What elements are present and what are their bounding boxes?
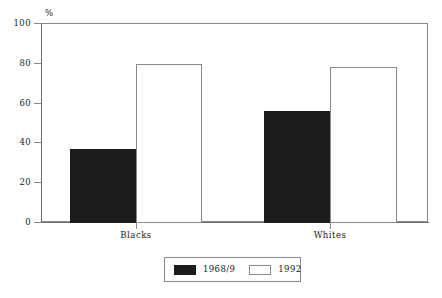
- bar-blacks-1992: [136, 64, 202, 223]
- y-axis-line: [41, 23, 42, 223]
- y-tick-60: [34, 103, 41, 104]
- x-axis-label-whites: Whites: [270, 231, 390, 240]
- y-tick-0: [34, 222, 41, 223]
- legend-item-1968-9: 1968/9: [174, 265, 235, 275]
- y-tick-100: [34, 23, 41, 24]
- chart-legend: 1968/9 1992: [164, 257, 301, 282]
- y-tick-label-100: 100: [0, 19, 31, 28]
- x-tick-blacks: [136, 223, 137, 229]
- legend-swatch-dark-icon: [174, 265, 196, 275]
- bar-blacks-1968-9: [70, 149, 136, 223]
- y-axis-unit-label: %: [45, 9, 53, 18]
- y-tick-80: [34, 63, 41, 64]
- legend-label-1992: 1992: [278, 265, 301, 274]
- bar-whites-1968-9: [264, 111, 330, 223]
- x-axis-label-blacks: Blacks: [76, 231, 196, 240]
- y-tick-40: [34, 142, 41, 143]
- y-tick-label-20: 20: [0, 178, 31, 187]
- legend-label-1968-9: 1968/9: [203, 265, 235, 274]
- y-tick-label-80: 80: [0, 59, 31, 68]
- x-tick-whites: [330, 223, 331, 229]
- legend-item-1992: 1992: [249, 265, 301, 275]
- y-tick-label-40: 40: [0, 138, 31, 147]
- y-tick-label-60: 60: [0, 99, 31, 108]
- bar-whites-1992: [330, 67, 397, 223]
- bar-chart: % 0 20 40 60 80 100 Blacks Whites 1968/9…: [0, 0, 442, 298]
- legend-swatch-light-icon: [249, 265, 271, 275]
- y-tick-20: [34, 182, 41, 183]
- y-tick-label-0: 0: [0, 218, 31, 227]
